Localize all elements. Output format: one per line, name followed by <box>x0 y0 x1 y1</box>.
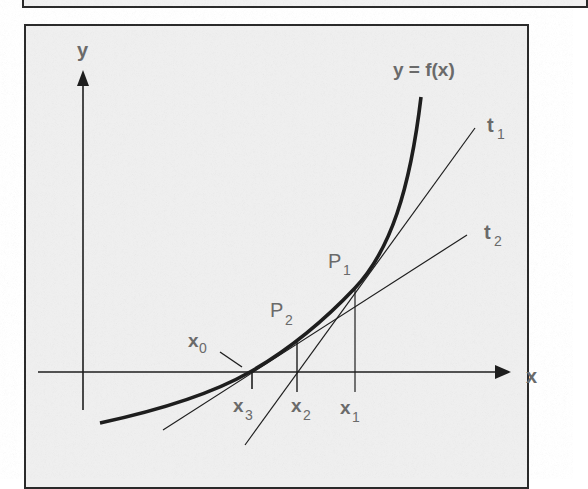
svg-text:x: x <box>233 395 244 416</box>
svg-text:2: 2 <box>303 407 311 423</box>
x-axis-label: x <box>526 365 537 387</box>
svg-text:1: 1 <box>343 262 351 278</box>
svg-text:P: P <box>270 299 283 321</box>
svg-text:3: 3 <box>245 407 253 423</box>
svg-text:x: x <box>340 397 351 418</box>
paper-texture <box>26 26 523 479</box>
y-axis-label: y <box>77 39 89 61</box>
svg-text:t: t <box>484 221 491 243</box>
curve-label: y = f(x) <box>393 59 455 80</box>
svg-text:2: 2 <box>494 233 502 249</box>
svg-text:2: 2 <box>285 312 293 328</box>
svg-text:x: x <box>291 395 302 416</box>
svg-text:P: P <box>328 250 341 272</box>
svg-text:t: t <box>487 114 494 136</box>
svg-text:0: 0 <box>199 340 207 356</box>
svg-text:1: 1 <box>497 126 505 142</box>
svg-text:x: x <box>188 330 199 351</box>
svg-text:1: 1 <box>352 409 360 425</box>
